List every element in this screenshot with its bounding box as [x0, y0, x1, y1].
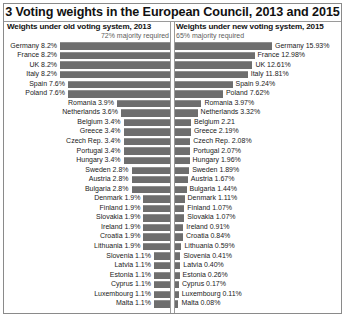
row-label-old: Romania 3.9% [68, 98, 114, 107]
row-label-new: Sweden 1.89% [192, 165, 239, 174]
row-label-old: Sweden 2.8% [85, 165, 128, 174]
bar-new-system [175, 243, 181, 250]
bar-new-system [175, 52, 255, 59]
row-label-old: UK 8.2% [29, 60, 57, 69]
bar-old-system [154, 300, 170, 307]
bar-new-system [175, 61, 252, 68]
row-label-new: Hungary 1.96% [193, 155, 241, 164]
old-system-panel-row: Malta 1.1% [0, 299, 170, 309]
row-label-old: Luxembourg 1.1% [94, 289, 151, 298]
bar-old-system [143, 224, 170, 231]
row-label-old: Malta 1.1% [116, 298, 151, 307]
chart-row: Belgium 3.4%Belgium 2.21 [0, 117, 345, 127]
panel-headers: Weights under old voting system, 2013 72… [4, 22, 341, 40]
chart-row: Slovenia 1.1%Slovenia 0.41% [0, 251, 345, 261]
row-label-new: Romania 3.97% [204, 98, 254, 107]
chart-figure: 3 Voting weights in the European Council… [0, 0, 345, 316]
old-system-panel-row: France 8.2% [0, 51, 170, 61]
old-system-panel-row: Croatia 1.9% [0, 232, 170, 242]
bar-new-system [175, 300, 178, 307]
bar-new-system [175, 157, 190, 164]
row-label-new: Cyprus 0.17% [182, 279, 226, 288]
chart-row: Croatia 1.9%Croatia 0.84% [0, 232, 345, 242]
bar-new-system [175, 224, 183, 231]
chart-row: Austria 2.8%Austria 1.67% [0, 175, 345, 185]
row-label-old: Austria 2.8% [89, 174, 129, 183]
chart-row: Latvia 1.1%Latvia 0.40% [0, 261, 345, 271]
bar-old-system [132, 186, 171, 193]
row-label-new: UK 12.61% [255, 60, 290, 69]
bar-old-system [143, 195, 170, 202]
chart-row: Malta 1.1%Malta 0.08% [0, 299, 345, 309]
row-label-old: Belgium 3.4% [77, 117, 120, 126]
bar-old-system [132, 176, 171, 183]
bar-new-system [175, 90, 223, 97]
row-label-old: Croatia 1.9% [100, 231, 140, 240]
old-system-panel-row: Bulgaria 2.8% [0, 184, 170, 194]
bar-new-system [175, 147, 190, 154]
bar-old-system [124, 157, 170, 164]
row-label-new: Slovakia 1.07% [187, 212, 235, 221]
bar-old-system [124, 138, 170, 145]
row-label-new: Italy 11.81% [251, 69, 289, 78]
bar-old-system [60, 61, 170, 68]
row-label-new: Poland 7.62% [226, 88, 270, 97]
bar-new-system [175, 100, 201, 107]
row-label-new: Germany 15.93% [275, 41, 329, 50]
row-label-new: Austria 1.67% [191, 174, 235, 183]
bar-new-system [175, 252, 180, 259]
row-label-new: Denmark 1.11% [188, 193, 238, 202]
row-label-old: Italy 8.2% [26, 69, 57, 78]
row-label-new: France 12.98% [258, 50, 305, 59]
chart-row: Bulgaria 2.8%Bulgaria 1.44% [0, 184, 345, 194]
panel-header-old: Weights under old voting system, 2013 [7, 22, 151, 31]
row-label-new: Luxembourg 0.11% [182, 289, 242, 298]
row-label-old: Hungary 3.4% [76, 155, 120, 164]
bar-old-system [60, 42, 170, 49]
bar-old-system [154, 272, 170, 279]
bar-new-system [175, 272, 180, 279]
chart-rows: Germany 8.2%Germany 15.93%France 8.2%Fra… [0, 41, 345, 315]
row-label-old: Greece 3.4% [80, 126, 121, 135]
bar-old-system [154, 291, 170, 298]
bar-new-system [175, 262, 180, 269]
bar-old-system [154, 281, 170, 288]
bar-old-system [143, 243, 170, 250]
chart-row: Portugal 3.4%Portugal 2.07% [0, 146, 345, 156]
bar-new-system [175, 109, 198, 116]
bar-new-system [175, 167, 189, 174]
chart-row: Poland 7.6%Poland 7.62% [0, 89, 345, 99]
bar-old-system [60, 71, 170, 78]
bar-new-system [175, 138, 190, 145]
row-label-new: Slovenia 0.41% [183, 251, 232, 260]
chart-row: Lithuania 1.9%Lithuania 0.59% [0, 241, 345, 251]
bar-new-system [175, 128, 191, 135]
row-label-new: Finland 1.07% [187, 203, 232, 212]
bar-old-system [68, 90, 170, 97]
bar-old-system [124, 147, 170, 154]
row-label-old: Netherlands 3.6% [62, 107, 118, 116]
old-system-panel-row: Slovakia 1.9% [0, 213, 170, 223]
row-label-old: Germany 8.2% [10, 41, 57, 50]
row-label-new: Belgium 2.21 [194, 117, 235, 126]
old-system-panel-row: Denmark 1.9% [0, 194, 170, 204]
bar-old-system [154, 262, 170, 269]
row-label-old: Slovakia 1.9% [96, 212, 140, 221]
chart-row: Slovakia 1.9%Slovakia 1.07% [0, 213, 345, 223]
chart-row: Greece 3.4%Greece 2.19% [0, 127, 345, 137]
bar-old-system [154, 252, 170, 259]
bar-old-system [143, 233, 170, 240]
chart-row: Finland 1.9%Finland 1.07% [0, 203, 345, 213]
bar-new-system [175, 195, 185, 202]
chart-row: Ireland 1.9%Ireland 0.91% [0, 222, 345, 232]
new-system-panel-row: Malta 0.08% [175, 299, 341, 309]
row-label-old: Ireland 1.9% [101, 222, 140, 231]
bar-new-system [175, 71, 248, 78]
chart-row: Luxembourg 1.1%Luxembourg 0.11% [0, 289, 345, 299]
row-label-new: Estonia 0.26% [183, 270, 228, 279]
bar-new-system [175, 281, 179, 288]
old-system-panel-row: Ireland 1.9% [0, 222, 170, 232]
row-label-old: Estonia 1.1% [110, 270, 151, 279]
bar-old-system [143, 214, 170, 221]
panel-subtitle-old: 72% majority required [4, 32, 169, 39]
